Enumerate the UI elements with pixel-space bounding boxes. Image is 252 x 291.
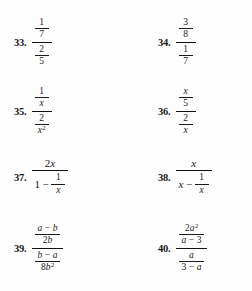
math-exponent: 2 (195, 223, 198, 230)
math-variable: x (50, 158, 55, 169)
inner-fraction: 2a2 a − 3 (179, 223, 205, 247)
inner-fraction: a 3 − a (179, 250, 205, 274)
inner-numerator: 1 (36, 86, 47, 98)
inner-numerator: a (186, 250, 197, 262)
complex-fraction: 2a2 a − 3 (176, 222, 208, 275)
inner-fraction: 1 7 (35, 17, 49, 41)
math-term: 1 (39, 18, 44, 28)
fraction-numerator: a − b 2b (32, 222, 64, 248)
exercise-number: 36. (158, 106, 171, 117)
inner-denominator: x2 (35, 125, 48, 137)
fraction-numerator: x 5 (176, 85, 196, 111)
inner-numerator: 2 (36, 113, 47, 125)
fraction-numerator: 2a2 a − 3 (176, 222, 208, 248)
exercise-33[interactable]: 33. 1 7 2 5 (0, 8, 154, 76)
inner-fraction: 1 x (35, 86, 49, 110)
fraction-denominator: 1 7 (176, 43, 196, 69)
inner-fraction: 1 7 (179, 44, 193, 68)
exercise-37[interactable]: 37. 2x 1 − 1 x (0, 148, 154, 206)
inner-fraction: 2 5 (35, 44, 49, 68)
inner-numerator: 2 (180, 113, 191, 125)
inner-denominator: 8b2 (38, 262, 57, 274)
exercise-row: 35. 1 x 2 x2 (0, 78, 252, 144)
inner-fraction: 2 x (179, 113, 193, 137)
math-variable: x (56, 186, 60, 196)
inner-fraction: a − b 2b (35, 223, 61, 247)
math-term: 5 (183, 99, 188, 109)
math-variable: x (183, 87, 187, 97)
inner-fraction: 1 x (195, 172, 209, 196)
exercise-number: 38. (158, 172, 171, 183)
math-variable: a (53, 251, 58, 261)
math-term: 8 (183, 30, 188, 40)
exercise-number: 33. (14, 37, 27, 48)
math-operator: − (186, 263, 196, 273)
math-variable: x (39, 99, 43, 109)
math-term: 7 (39, 30, 44, 40)
math-term: 1 (199, 173, 204, 183)
math-operator: − (40, 179, 51, 190)
math-term: 3 (197, 236, 202, 246)
exercise-number: 39. (14, 243, 27, 254)
inner-denominator: x (53, 185, 63, 197)
inner-denominator: 7 (180, 56, 191, 68)
inner-numerator: 1 (53, 172, 64, 184)
complex-fraction: 1 x 2 x2 (32, 85, 52, 138)
inner-denominator: 5 (36, 56, 47, 68)
math-term: 7 (183, 57, 188, 67)
exercise-38[interactable]: 38. x x − 1 x (154, 148, 252, 206)
math-variable: a (190, 224, 195, 234)
exercise-36[interactable]: 36. x 5 2 x (154, 78, 252, 144)
math-variable: x (191, 158, 196, 169)
math-term: 1 (39, 87, 44, 97)
math-term: 2 (39, 45, 44, 55)
math-operator: − (186, 236, 196, 246)
complex-fraction: x 5 2 x (176, 85, 196, 138)
fraction-denominator: 2 x2 (32, 112, 52, 138)
math-variable: x (183, 126, 187, 136)
inner-denominator: 2b (40, 235, 56, 247)
inner-denominator: 8 (180, 29, 191, 41)
inner-numerator: 1 (36, 17, 47, 29)
exercise-row: 33. 1 7 2 5 (0, 8, 252, 76)
inner-denominator: 5 (180, 98, 191, 110)
inner-numerator: 2 (36, 44, 47, 56)
fraction-denominator: 2 x (176, 112, 196, 138)
complex-fraction: 3 8 1 7 (176, 16, 196, 69)
exercise-40[interactable]: 40. 2a2 a − (154, 208, 252, 288)
inner-fraction: 2 x2 (35, 113, 49, 137)
fraction-numerator: 3 8 (176, 16, 196, 42)
math-term: 2 (39, 114, 44, 124)
fraction-numerator: 2x (42, 157, 58, 170)
fraction-denominator: 2 5 (32, 43, 52, 69)
exercise-39[interactable]: 39. a − b 2b (0, 208, 154, 288)
inner-fraction: 3 8 (179, 17, 193, 41)
inner-numerator: 3 (180, 17, 191, 29)
math-variable: b (47, 236, 52, 246)
fraction-denominator: 1 − 1 x (32, 171, 69, 197)
exercise-number: 40. (158, 243, 171, 254)
math-operator: − (183, 179, 194, 190)
inner-fraction: 1 x (51, 172, 65, 196)
exercise-row: 39. a − b 2b (0, 208, 252, 288)
inner-numerator: x (180, 86, 190, 98)
exercise-number: 35. (14, 106, 27, 117)
math-variable: b (46, 263, 51, 273)
math-variable: b (53, 224, 58, 234)
inner-numerator: 1 (180, 44, 191, 56)
math-exponent: 2 (51, 262, 54, 269)
complex-fraction: x x − 1 x (176, 157, 212, 197)
math-term: 1 (183, 45, 188, 55)
math-term: 3 (183, 18, 188, 28)
inner-numerator: b − a (35, 250, 61, 262)
math-variable: x (200, 186, 204, 196)
exercise-list: 33. 1 7 2 5 (0, 0, 252, 291)
math-term: 2 (183, 114, 188, 124)
exercise-35[interactable]: 35. 1 x 2 x2 (0, 78, 154, 144)
math-variable: a (189, 251, 194, 261)
inner-fraction: b − a 8b2 (35, 250, 61, 274)
exercise-34[interactable]: 34. 3 8 1 7 (154, 8, 252, 76)
fraction-denominator: b − a 8b2 (32, 249, 64, 275)
inner-denominator: x (36, 98, 46, 110)
math-term: 1 (56, 173, 61, 183)
